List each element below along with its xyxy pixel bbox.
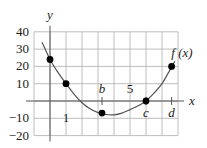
curve-path bbox=[42, 42, 175, 115]
function-graph: 40302010−10−2015bcdxyf (x) bbox=[0, 0, 207, 148]
y-tick-label: 30 bbox=[16, 41, 29, 56]
curve-f bbox=[42, 42, 175, 115]
y-tick-label: 20 bbox=[16, 58, 29, 73]
x-axis-label: x bbox=[188, 93, 195, 108]
marker-label-c: c bbox=[143, 105, 149, 120]
y-tick-label: 10 bbox=[16, 76, 29, 91]
x-tick-label: 1 bbox=[63, 110, 70, 125]
curve-label: f (x) bbox=[171, 45, 192, 60]
marker-label-b: b bbox=[99, 81, 106, 96]
y-axis-label: y bbox=[45, 7, 53, 22]
y-tick-label: 40 bbox=[16, 24, 29, 39]
marker-label-d: d bbox=[168, 105, 175, 120]
data-point bbox=[47, 56, 54, 63]
data-point bbox=[99, 110, 106, 117]
grid bbox=[34, 32, 178, 136]
data-point bbox=[63, 80, 70, 87]
x-tick-label: 5 bbox=[127, 81, 134, 96]
y-tick-label: −10 bbox=[9, 110, 29, 125]
data-point bbox=[143, 98, 150, 105]
y-tick-label: −20 bbox=[9, 128, 29, 143]
data-point bbox=[168, 63, 175, 70]
